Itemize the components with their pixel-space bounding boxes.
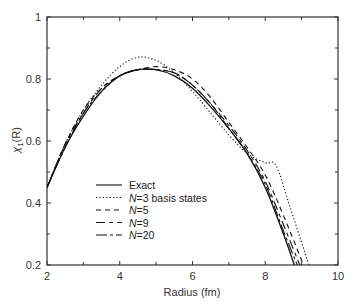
legend: ExactN=3 basis statesN=5N=9N=20	[96, 179, 207, 241]
series-dash-dot	[47, 69, 297, 265]
x-tick-label: 4	[117, 270, 123, 282]
series-dotted	[47, 57, 309, 265]
x-tick-label: 6	[189, 270, 195, 282]
y-tick-label: 0.2	[26, 259, 41, 271]
plot-border	[47, 17, 338, 265]
y-axis-label: χ1(R)	[10, 127, 25, 154]
chart: 2468100.20.40.60.81 ExactN=3 basis state…	[0, 0, 354, 308]
y-label-tail: (R)	[10, 127, 22, 142]
legend-item-label: N=20	[129, 229, 155, 241]
y-tick-label: 0.8	[26, 73, 41, 85]
legend-item-label: N=5	[129, 204, 149, 216]
legend-item-label: N=9	[129, 217, 149, 229]
legend-item-label: N=3 basis states	[129, 192, 207, 204]
x-tick-label: 8	[262, 270, 268, 282]
axis-ticks: 2468100.20.40.60.81	[26, 11, 344, 282]
x-tick-label: 10	[332, 270, 344, 282]
data-series	[47, 57, 309, 265]
x-axis-label: Radius (fm)	[164, 286, 221, 298]
plot-frame	[47, 17, 338, 265]
series-long-dash	[47, 69, 300, 265]
x-tick-label: 2	[44, 270, 50, 282]
y-tick-label: 0.4	[26, 197, 41, 209]
legend-item-label: Exact	[129, 179, 155, 191]
y-tick-label: 0.6	[26, 135, 41, 147]
y-tick-label: 1	[35, 11, 41, 23]
series-short-dash	[47, 67, 303, 265]
